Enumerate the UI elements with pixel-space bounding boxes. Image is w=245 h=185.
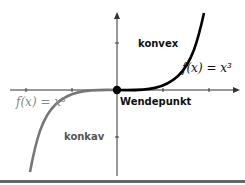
y-axis-arrow-icon — [114, 12, 120, 19]
label-wendepunkt: Wendepunkt — [120, 96, 191, 107]
cubic-function-diagram — [0, 0, 245, 185]
convex-curve — [117, 13, 204, 90]
label-function-right: f(x) = x³ — [182, 61, 232, 75]
label-function-left: f(x) = x³ — [16, 95, 66, 109]
bottom-rule — [0, 180, 245, 183]
label-konkav: konkav — [64, 131, 104, 142]
inflection-point — [113, 86, 121, 94]
label-konvex: konvex — [138, 38, 178, 49]
x-axis-arrow-icon — [233, 87, 240, 93]
